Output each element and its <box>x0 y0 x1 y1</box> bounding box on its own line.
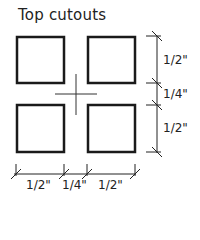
vertical-dimension-line <box>146 31 162 157</box>
dim-vertical-2: 1/4" <box>163 87 188 101</box>
dim-vertical-1: 1/2" <box>163 53 188 67</box>
square-bottom-left <box>17 105 64 152</box>
dim-horizontal-1: 1/2" <box>26 178 51 192</box>
dim-horizontal-2: 1/4" <box>62 178 87 192</box>
center-crosshair-icon <box>55 74 97 115</box>
dim-horizontal-3: 1/2" <box>98 178 123 192</box>
square-top-right <box>88 37 135 83</box>
dim-vertical-3: 1/2" <box>163 121 188 135</box>
square-bottom-right <box>88 105 135 152</box>
horizontal-dimension-line <box>11 164 140 179</box>
square-top-left <box>17 37 64 83</box>
